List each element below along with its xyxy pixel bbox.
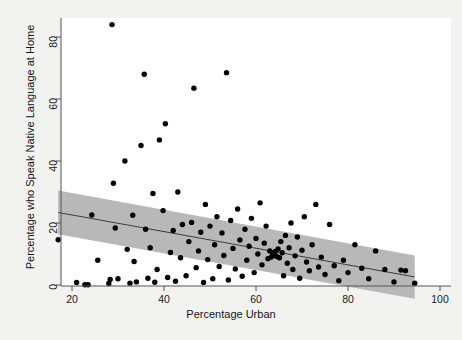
chart-canvas <box>0 0 462 340</box>
x-tick-label: 40 <box>144 293 184 305</box>
scatter-plot-figure: 20406080100 020406080 Percentage Urban P… <box>0 0 462 340</box>
y-axis-title: Percentage who Speak Native Language at … <box>24 13 36 281</box>
y-tick-label: 40 <box>47 160 59 180</box>
y-tick-label: 60 <box>47 98 59 118</box>
y-tick-label: 0 <box>47 284 59 304</box>
y-tick-label: 20 <box>47 222 59 242</box>
x-axis-title: Percentage Urban <box>0 308 462 320</box>
x-tick-label: 100 <box>420 293 460 305</box>
y-tick-label: 80 <box>47 36 59 56</box>
x-tick-label: 80 <box>328 293 368 305</box>
x-tick-label: 60 <box>236 293 276 305</box>
